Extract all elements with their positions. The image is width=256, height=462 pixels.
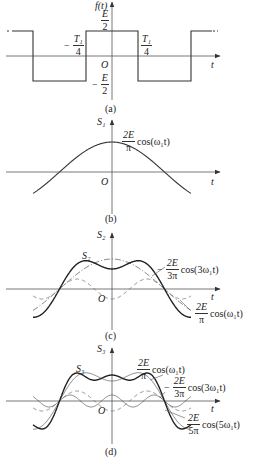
term-den: π bbox=[199, 314, 204, 325]
term-den: 5π bbox=[189, 425, 199, 436]
panel-c-axes bbox=[6, 233, 220, 330]
bottom-level-den: 2 bbox=[102, 85, 107, 96]
caption-a: (a) bbox=[105, 103, 116, 114]
origin-label-a: O bbox=[101, 60, 108, 70]
origin-label-c: O bbox=[98, 294, 105, 304]
term-den: π bbox=[126, 142, 131, 153]
term-func: cos(ω₁t) bbox=[137, 136, 170, 147]
origin-label-b: O bbox=[101, 177, 108, 187]
term-num: 2E bbox=[166, 258, 179, 270]
curve-label-s3: S₃ bbox=[76, 364, 84, 374]
right-edge-label: T₁ 4 bbox=[141, 34, 152, 57]
minus-sign: − bbox=[164, 382, 170, 393]
third-harmonic-term-label-d: − 2E3π cos(3ω₁t) bbox=[164, 376, 226, 399]
caption-b: (b) bbox=[105, 213, 117, 224]
top-level-label: E 2 bbox=[101, 9, 109, 32]
curve-label-s2: S₂ bbox=[82, 251, 90, 261]
term-num: 2E bbox=[122, 130, 135, 142]
top-level-den: 2 bbox=[103, 21, 108, 32]
term-num: 2E bbox=[137, 358, 150, 370]
left-edge-label: − T₁4 bbox=[64, 34, 84, 57]
right-edge-num: T₁ bbox=[141, 34, 152, 46]
minus-sign: − bbox=[64, 40, 70, 51]
minus-sign: − bbox=[157, 264, 163, 275]
minus-sign: − bbox=[92, 79, 98, 90]
term-num: 2E bbox=[187, 413, 200, 425]
term-func: cos(ω₁t) bbox=[210, 308, 243, 319]
bottom-level-label: − E2 bbox=[92, 73, 109, 96]
fundamental-term-label: 2Eπ cos(ω₁t) bbox=[122, 130, 170, 153]
third-harmonic-term-label: − 2E3π cos(3ω₁t) bbox=[157, 258, 219, 281]
x-axis-label-a: t bbox=[211, 60, 214, 70]
x-axis-label-b: t bbox=[211, 177, 214, 187]
left-edge-num: T₁ bbox=[73, 34, 84, 46]
term-den: π bbox=[141, 370, 146, 381]
term-func: cos(ω₁t) bbox=[152, 364, 185, 375]
term-func: cos(3ω₁t) bbox=[181, 264, 219, 275]
fundamental-term-label-c: 2Eπ cos(ω₁t) bbox=[195, 302, 243, 325]
caption-d: (d) bbox=[105, 446, 117, 457]
y-axis-label-b: S₁ bbox=[97, 117, 105, 127]
caption-c: (c) bbox=[105, 330, 116, 341]
x-axis-label-c: t bbox=[211, 292, 214, 302]
panel-a-axes bbox=[6, 2, 220, 100]
y-axis-label-c: S₂ bbox=[97, 230, 105, 240]
bottom-level-num: E bbox=[101, 73, 109, 85]
origin-label-d: O bbox=[98, 406, 105, 416]
left-edge-den: 4 bbox=[76, 46, 81, 57]
term-func: cos(5ω₁t) bbox=[202, 419, 240, 430]
top-level-num: E bbox=[101, 9, 109, 21]
term-num: 2E bbox=[173, 376, 186, 388]
term-num: 2E bbox=[195, 302, 208, 314]
y-axis-label-d: S₃ bbox=[97, 344, 105, 354]
term-func: cos(3ω₁t) bbox=[188, 382, 226, 393]
term-den: 3π bbox=[174, 388, 184, 399]
fifth-harmonic-term-label: 2E5π cos(5ω₁t) bbox=[187, 413, 240, 436]
right-edge-den: 4 bbox=[144, 46, 149, 57]
panel-b-axes bbox=[6, 120, 220, 214]
term-den: 3π bbox=[167, 270, 177, 281]
